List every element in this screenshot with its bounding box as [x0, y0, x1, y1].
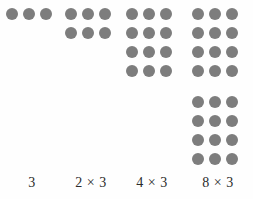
dot	[226, 46, 238, 58]
dot-group-1: 3	[6, 0, 58, 199]
group-label-1: 3	[6, 175, 58, 191]
dot	[160, 46, 172, 58]
dot	[209, 65, 221, 77]
dot-row	[126, 8, 178, 27]
dot-row	[192, 96, 244, 115]
dot	[126, 8, 138, 20]
dot-row	[126, 27, 178, 46]
dot	[143, 65, 155, 77]
dot	[99, 27, 111, 39]
dot-stack-3	[126, 8, 178, 84]
group-label-4: 8 × 3	[192, 175, 244, 191]
dot	[192, 27, 204, 39]
dot-group-2: 2 × 3	[65, 0, 117, 199]
dot	[209, 96, 221, 108]
dot	[160, 65, 172, 77]
group-label-text-4: 8 × 3	[202, 175, 233, 190]
dot-array-figure: 3 2 × 3 4 × 3 8 × 3	[0, 0, 253, 199]
dot	[82, 8, 94, 20]
dot	[192, 153, 204, 165]
dot	[226, 27, 238, 39]
dot	[192, 96, 204, 108]
dot	[226, 153, 238, 165]
dot-row	[192, 65, 244, 84]
group-label-2: 2 × 3	[65, 175, 117, 191]
dot	[209, 153, 221, 165]
dot	[226, 134, 238, 146]
dot	[209, 115, 221, 127]
dot-row	[192, 46, 244, 65]
dot	[160, 8, 172, 20]
dot-row	[126, 65, 178, 84]
dot	[192, 134, 204, 146]
dot-stack-4	[192, 8, 244, 172]
dot	[192, 65, 204, 77]
dot	[23, 8, 35, 20]
dot	[209, 46, 221, 58]
group-label-text-1: 3	[28, 175, 36, 190]
dot	[6, 8, 18, 20]
dot-row	[192, 115, 244, 134]
dot	[143, 46, 155, 58]
dot	[226, 8, 238, 20]
dot-stack-1	[6, 8, 58, 27]
dot	[209, 134, 221, 146]
dot-row	[126, 46, 178, 65]
dot	[99, 8, 111, 20]
dot	[126, 65, 138, 77]
group-label-3: 4 × 3	[126, 175, 178, 191]
dot	[226, 115, 238, 127]
dot	[226, 65, 238, 77]
dot	[226, 96, 238, 108]
dot	[192, 115, 204, 127]
dot	[192, 46, 204, 58]
dot	[160, 27, 172, 39]
dot-stack-2	[65, 8, 117, 46]
dot	[192, 8, 204, 20]
dot-group-4: 8 × 3	[192, 0, 244, 199]
dot	[40, 8, 52, 20]
dot-row	[65, 27, 117, 46]
dot	[209, 27, 221, 39]
dot-row	[192, 153, 244, 172]
group-label-text-3: 4 × 3	[136, 175, 167, 190]
dot-row	[65, 8, 117, 27]
group-label-text-2: 2 × 3	[75, 175, 106, 190]
dot	[143, 27, 155, 39]
dot	[126, 46, 138, 58]
dot	[126, 27, 138, 39]
dot-group-3: 4 × 3	[126, 0, 178, 199]
dot-row	[6, 8, 58, 27]
dot	[143, 8, 155, 20]
dot	[65, 8, 77, 20]
dot	[82, 27, 94, 39]
dot	[209, 8, 221, 20]
dot-row	[192, 27, 244, 46]
dot	[65, 27, 77, 39]
dot-row	[192, 134, 244, 153]
dot-row	[192, 8, 244, 27]
